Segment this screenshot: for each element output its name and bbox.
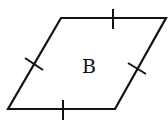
rhombus-diagram: B [0, 0, 168, 123]
shape-label: B [82, 55, 96, 77]
tick-right [128, 63, 146, 74]
tick-left [25, 58, 43, 70]
